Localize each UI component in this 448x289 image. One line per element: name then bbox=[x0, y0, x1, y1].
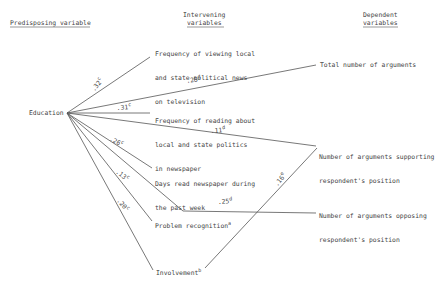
node-involvement: Involvementb bbox=[156, 266, 201, 277]
node-problem-recognition-text: Problem recognition bbox=[155, 222, 228, 230]
edge-education-problem bbox=[67, 113, 152, 221]
node-days-read-line1: Days read newspaper during bbox=[155, 180, 255, 188]
node-tv-news-line2: and state political news bbox=[155, 74, 255, 82]
node-opposing: Number of arguments opposing respondent'… bbox=[319, 196, 427, 252]
node-supporting-line1: Number of arguments supporting bbox=[319, 153, 434, 161]
header-dependent-1: Dependent bbox=[363, 11, 398, 19]
coef-tv-total: .25d bbox=[186, 73, 202, 85]
header-predisposing: Predisposing variable bbox=[10, 19, 91, 27]
node-involvement-sup: b bbox=[198, 267, 201, 273]
node-education: Education bbox=[29, 109, 64, 117]
node-reading-line1: Frequency of reading about bbox=[155, 117, 255, 125]
node-opposing-line2: respondent's position bbox=[319, 236, 427, 244]
coef-education-supporting: .11d bbox=[210, 124, 225, 135]
node-problem-recognition: Problem recognitiona bbox=[155, 219, 231, 230]
node-total-args: Total number of arguments bbox=[320, 61, 416, 69]
header-intervening-2: variables bbox=[187, 19, 222, 27]
node-supporting: Number of arguments supporting responden… bbox=[319, 137, 434, 193]
node-days-read-line2: the past week bbox=[155, 204, 255, 212]
node-reading-line2: local and state politics bbox=[155, 141, 255, 149]
node-supporting-line2: respondent's position bbox=[319, 177, 434, 185]
node-days-read: Days read newspaper during the past week bbox=[155, 164, 255, 220]
node-tv-news-line1: Frequency of viewing local bbox=[155, 50, 255, 58]
header-intervening-1: Intervening bbox=[183, 11, 225, 19]
node-involvement-text: Involvement bbox=[156, 269, 198, 277]
header-dependent-2: variables bbox=[363, 19, 398, 27]
node-problem-recognition-sup: a bbox=[228, 220, 231, 226]
coef-days-opposing: .25d bbox=[217, 195, 232, 206]
coef-education-reading: .31c bbox=[116, 101, 131, 112]
node-opposing-line1: Number of arguments opposing bbox=[319, 212, 427, 220]
